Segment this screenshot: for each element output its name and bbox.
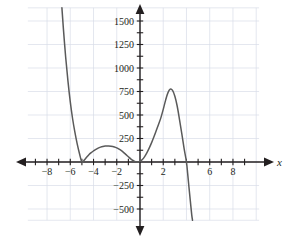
y-tick-label: −250 — [113, 180, 134, 191]
x-tick-label: −2 — [111, 166, 122, 177]
y-tick-label: 250 — [119, 133, 134, 144]
y-tick-label: 500 — [119, 110, 134, 121]
y-tick-label: 1250 — [114, 39, 134, 50]
y-tick-label: 1500 — [114, 16, 134, 27]
polynomial-graph: −8−6−4−2268150012501000750500250−250−500… — [0, 0, 290, 238]
x-tick-label: −8 — [42, 166, 53, 177]
x-tick-label: 2 — [161, 166, 166, 177]
x-tick-label: −6 — [65, 166, 76, 177]
x-tick-label: −4 — [88, 166, 99, 177]
chart-background — [0, 0, 290, 238]
y-tick-label: 750 — [119, 86, 134, 97]
y-tick-label: 1000 — [114, 63, 134, 74]
x-axis-label: x — [276, 156, 282, 168]
x-tick-label: 8 — [230, 166, 235, 177]
x-tick-label: 6 — [207, 166, 212, 177]
y-tick-label: −500 — [113, 204, 134, 215]
